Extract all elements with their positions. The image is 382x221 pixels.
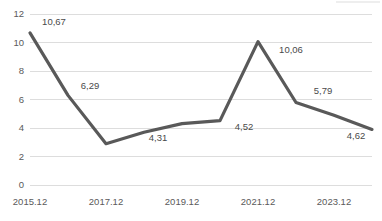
data-point-label: 4,52 <box>235 121 254 132</box>
x-axis-tick-label: 2015.12 <box>13 196 47 207</box>
data-point-label: 6,29 <box>81 80 100 91</box>
x-axis-tick-label: 2019.12 <box>165 196 199 207</box>
top-edge-artifact <box>336 1 380 3</box>
x-axis-tick-label: 2023.12 <box>317 196 351 207</box>
y-axis-tick-label: 4 <box>19 122 24 133</box>
chart-canvas: 024681012 2015.122017.122019.122021.1220… <box>0 0 382 221</box>
x-axis-tick-label: 2017.12 <box>89 196 123 207</box>
y-axis-tick-label: 6 <box>19 94 24 105</box>
data-point-label: 4,62 <box>347 130 366 141</box>
y-axis-tick-label: 8 <box>19 65 24 76</box>
data-point-label: 10,67 <box>42 16 66 27</box>
y-axis-tick-label: 2 <box>19 151 24 162</box>
data-point-label: 4,31 <box>149 132 168 143</box>
data-point-label: 5,79 <box>314 85 333 96</box>
line-chart: 024681012 2015.122017.122019.122021.1220… <box>0 0 382 221</box>
y-axis-tick-label: 0 <box>19 179 24 190</box>
x-axis-tick-label: 2021.12 <box>241 196 275 207</box>
y-axis-tick-label: 12 <box>13 8 24 19</box>
data-point-label: 10,06 <box>279 44 303 55</box>
y-axis-tick-label: 10 <box>13 37 24 48</box>
